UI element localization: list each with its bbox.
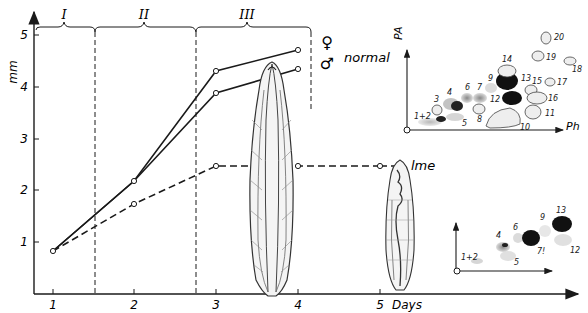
y-tick-3: 3 bbox=[20, 132, 28, 146]
spot-label: 14 bbox=[502, 55, 512, 64]
spot-label: 20 bbox=[554, 33, 564, 42]
spot-label: 12 bbox=[570, 246, 580, 255]
spot-label: 3 bbox=[434, 95, 439, 104]
chromatogram-normal: PA Ph 1+2 3 4 5 6 7 8 9 1 bbox=[392, 26, 582, 133]
spot-label: 1+2 bbox=[461, 253, 478, 262]
spot-label: 12 bbox=[490, 95, 500, 104]
x-tick-1: 1 bbox=[49, 298, 57, 312]
phase-label-1: I bbox=[60, 7, 67, 22]
spot-label: 4 bbox=[447, 88, 452, 97]
phase-brackets bbox=[36, 22, 311, 32]
y-tick-5: 5 bbox=[20, 28, 28, 42]
spot-label: 11 bbox=[545, 109, 555, 118]
chromatogram-lme: 1+2 4 5 6 7! 9 12 13 bbox=[454, 206, 580, 274]
spot-label: 15 bbox=[532, 77, 542, 86]
y-tick-4: 4 bbox=[20, 80, 28, 94]
phase-label-3: III bbox=[238, 7, 255, 22]
spot-label: 18 bbox=[572, 65, 582, 74]
spot-label: 7 bbox=[477, 83, 483, 92]
spot-label: 1+2 bbox=[414, 112, 431, 121]
figure: 5 4 3 2 1 mm 1 2 3 4 5 Days I II III bbox=[0, 0, 588, 313]
x-tick-4: 4 bbox=[294, 298, 302, 312]
female-symbol: ♀ bbox=[321, 33, 333, 52]
spot-label: 9 bbox=[488, 74, 493, 83]
ph-axis-label: Ph bbox=[566, 120, 580, 133]
larva-normal-illustration bbox=[250, 62, 293, 296]
spot-label: 19 bbox=[546, 53, 556, 62]
spot-label: 8 bbox=[477, 115, 482, 124]
y-axis-label: mm bbox=[6, 60, 20, 83]
x-axis bbox=[34, 289, 578, 294]
x-tick-2: 2 bbox=[130, 298, 138, 312]
y-tick-2: 2 bbox=[20, 183, 28, 197]
x-axis-label: Days bbox=[392, 298, 422, 312]
spot-label: 6 bbox=[513, 223, 518, 232]
spot-label: 5 bbox=[514, 258, 519, 267]
spot-label: 6 bbox=[465, 83, 470, 92]
series-lme bbox=[53, 166, 405, 251]
x-tick-3: 3 bbox=[212, 298, 220, 312]
spot-label: 4 bbox=[496, 231, 501, 240]
y-tick-1: 1 bbox=[20, 235, 28, 249]
pa-axis-label: PA bbox=[392, 26, 405, 40]
spot-label: 10 bbox=[520, 123, 530, 132]
spot-label: 9 bbox=[540, 213, 545, 222]
x-tick-5: 5 bbox=[376, 298, 384, 312]
male-symbol: ♂ bbox=[320, 54, 334, 73]
normal-label: normal bbox=[344, 50, 390, 65]
phase-label-2: II bbox=[138, 7, 150, 22]
y-axis bbox=[34, 12, 39, 294]
lme-label: lme bbox=[411, 158, 435, 173]
spot-label: 7! bbox=[537, 247, 545, 256]
spot-label: 17 bbox=[557, 78, 568, 87]
spot-label: 16 bbox=[548, 94, 558, 103]
spot-label: 13 bbox=[556, 206, 566, 215]
spot-label: 5 bbox=[462, 119, 467, 128]
spot-label: 13 bbox=[521, 74, 531, 83]
larva-lme-illustration bbox=[386, 160, 414, 290]
